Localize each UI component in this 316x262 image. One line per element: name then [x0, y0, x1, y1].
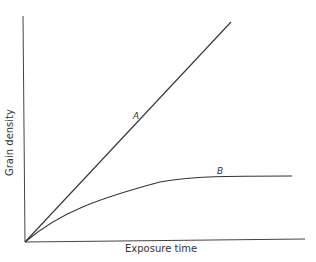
series-a-line [25, 22, 231, 242]
label-a: A [133, 111, 139, 121]
label-b: B [217, 166, 223, 176]
series-b-curve [25, 176, 292, 242]
y-axis [23, 16, 25, 242]
plot-area [0, 0, 316, 262]
chart: A B Exposure time Grain density [0, 0, 316, 262]
x-axis-label: Exposure time [125, 243, 197, 254]
x-axis [25, 239, 305, 242]
y-axis-label: Grain density [4, 109, 15, 176]
